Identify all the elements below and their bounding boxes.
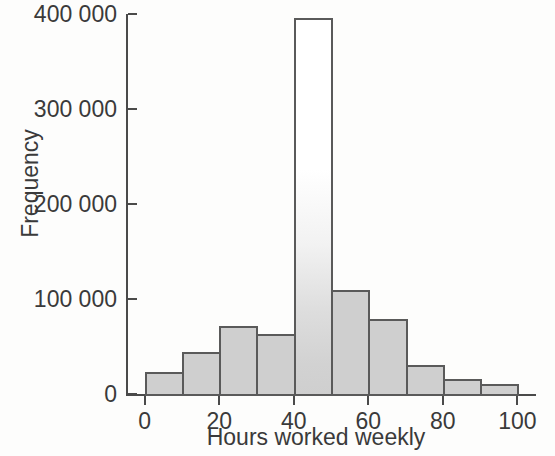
x-axis-label: Hours worked weekly [126,424,506,451]
y-tick-mark [128,298,137,300]
plot-area: 0100 000200 000300 000400 000 0204060801… [126,14,536,396]
histogram-bar [480,384,519,396]
y-tick-mark [128,393,137,395]
histogram-bar [406,365,445,396]
x-tick-mark [442,396,444,405]
x-tick-mark [293,396,295,405]
y-tick-label: 100 000 [34,286,117,313]
y-tick-mark [128,108,137,110]
x-tick-mark [218,396,220,405]
histogram-bar [443,379,482,396]
histogram-bar [256,334,295,396]
histogram-bar [182,352,221,396]
x-tick-mark [144,396,146,405]
y-tick-label: 300 000 [34,96,117,123]
y-tick-label: 400 000 [34,1,117,28]
histogram-figure: Frequency 0100 000200 000300 000400 000 … [0,0,555,456]
histogram-bar [368,319,407,396]
histogram-bar [145,372,184,396]
histogram-bar [219,326,258,396]
x-tick-mark [367,396,369,405]
y-tick-mark [128,203,137,205]
x-tick-mark [516,396,518,405]
y-axis-line [126,14,128,396]
histogram-bar [294,18,333,396]
y-tick-mark [128,13,137,15]
y-tick-label: 200 000 [34,191,117,218]
y-tick-label: 0 [104,381,117,408]
histogram-bar [331,290,370,397]
